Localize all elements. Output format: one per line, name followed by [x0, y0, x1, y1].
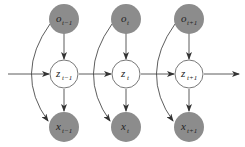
label-o-sub: t−1	[62, 19, 72, 27]
column-t-1: o t−1 z t−1 x t−1	[31, 4, 79, 142]
graphical-model-diagram: o t−1 z t−1 x t−1 o t z t x t o t+1 z t+…	[0, 0, 245, 147]
label-z-base: z	[180, 67, 186, 79]
label-z-base: z	[55, 67, 61, 79]
label-z-base: z	[120, 67, 126, 79]
label-x-base: x	[120, 120, 126, 132]
label-x-sub: t+1	[187, 127, 197, 135]
label-z-sub: t−1	[62, 74, 72, 82]
label-x-sub: t−1	[62, 127, 72, 135]
label-o-sub: t+1	[187, 19, 197, 27]
edge-o-to-x-curved	[93, 24, 112, 121]
label-z-sub: t+1	[187, 74, 197, 82]
node-x-t	[111, 112, 141, 142]
column-t+1: o t+1 z t+1 x t+1	[156, 4, 204, 142]
column-t: o t z t x t	[93, 4, 141, 142]
label-x-base: x	[55, 120, 61, 132]
edge-o-to-x-curved	[156, 24, 175, 121]
node-z-t	[112, 60, 140, 88]
label-x-base: x	[180, 120, 186, 132]
edge-o-to-x-curved	[31, 24, 50, 121]
